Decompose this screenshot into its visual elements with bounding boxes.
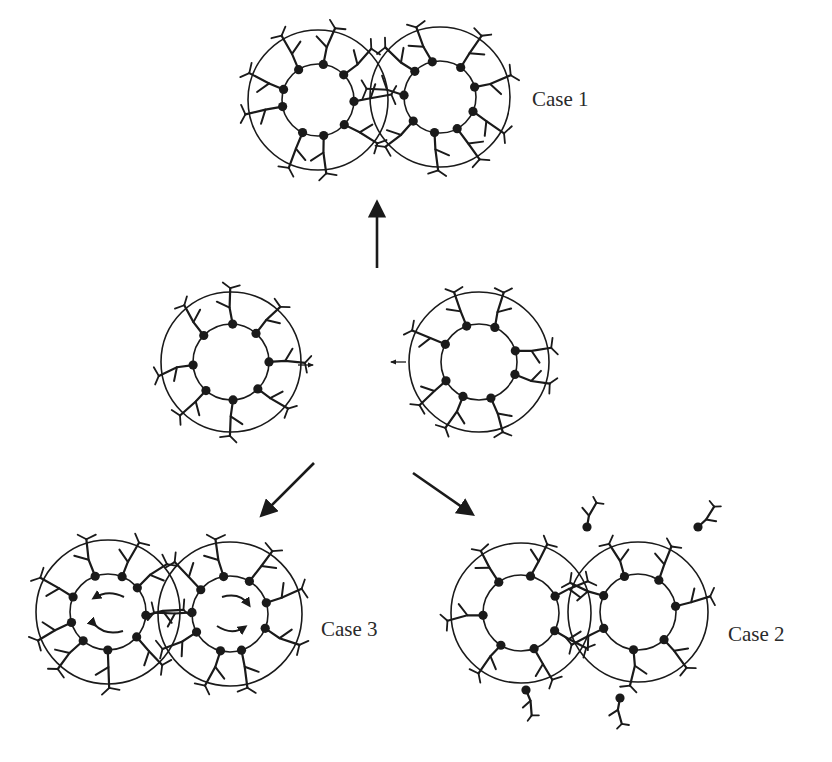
case1-label: Case 1 xyxy=(532,87,589,112)
particle-case3-right xyxy=(148,535,309,695)
particle-case2-right xyxy=(562,535,715,692)
diagram-canvas xyxy=(0,0,832,762)
collision-diagram: Case 1 Case 3 Case 2 xyxy=(0,0,832,762)
particle-case2-left xyxy=(440,536,596,689)
particle-case1-right xyxy=(362,21,520,176)
free-ligand xyxy=(609,693,629,728)
particle-initial-right xyxy=(404,287,558,437)
arrow-down-right-to-case2 xyxy=(413,473,472,514)
free-ligands-layer xyxy=(521,497,720,729)
particles-layer xyxy=(29,20,715,695)
arrow-down-left-to-case3 xyxy=(262,463,314,515)
free-ligand xyxy=(521,685,538,720)
case2-label: Case 2 xyxy=(728,622,785,647)
rotation-arrows-left-icon xyxy=(94,593,124,632)
case3-label: Case 3 xyxy=(321,617,378,642)
particle-initial-left xyxy=(154,283,311,443)
free-ligand xyxy=(582,497,603,532)
free-ligand xyxy=(693,501,720,532)
rotation-arrows-right-icon xyxy=(217,596,249,632)
particle-case1-left xyxy=(240,20,396,180)
